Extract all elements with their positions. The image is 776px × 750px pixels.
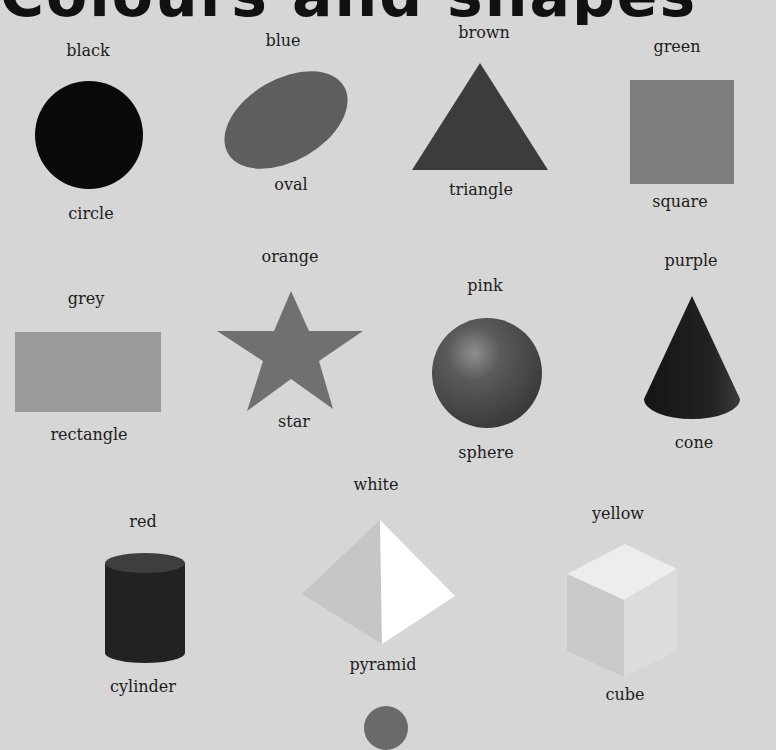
shape-label-triangle: triangle — [449, 181, 513, 199]
page-title: Colours and shapes — [0, 0, 776, 25]
shape-label-square: square — [652, 193, 707, 211]
shape-label-oval: oval — [274, 176, 307, 194]
cube-shape — [567, 544, 679, 678]
colour-label-white: white — [353, 476, 398, 494]
colour-label-orange: orange — [262, 248, 319, 266]
shape-label-cube: cube — [606, 686, 645, 704]
shape-label-star: star — [278, 413, 310, 431]
partial-shape-bottom — [364, 706, 408, 750]
cone-shape — [643, 296, 741, 422]
triangle-shape — [412, 63, 548, 171]
colour-label-pink: pink — [467, 277, 502, 295]
sphere-shape — [431, 317, 543, 429]
circle-shape — [34, 80, 144, 190]
colour-label-blue: blue — [265, 32, 300, 50]
shape-label-circle: circle — [68, 205, 113, 223]
colour-label-grey: grey — [68, 290, 104, 308]
pyramid-shape — [302, 520, 456, 646]
shape-label-cone: cone — [675, 434, 713, 452]
shape-label-rectangle: rectangle — [50, 426, 127, 444]
colour-label-red: red — [129, 513, 156, 531]
colour-label-brown: brown — [458, 24, 510, 42]
colour-label-purple: purple — [664, 252, 717, 270]
colour-label-black: black — [66, 42, 110, 60]
rectangle-shape — [15, 332, 161, 412]
star-shape — [217, 291, 363, 413]
shape-label-sphere: sphere — [458, 444, 513, 462]
colour-label-green: green — [653, 38, 700, 56]
square-shape — [630, 80, 734, 184]
shape-label-pyramid: pyramid — [350, 656, 417, 674]
oval-shape — [220, 68, 352, 172]
colour-label-yellow: yellow — [592, 505, 644, 523]
cylinder-shape — [104, 553, 186, 665]
shape-label-cylinder: cylinder — [110, 678, 176, 696]
